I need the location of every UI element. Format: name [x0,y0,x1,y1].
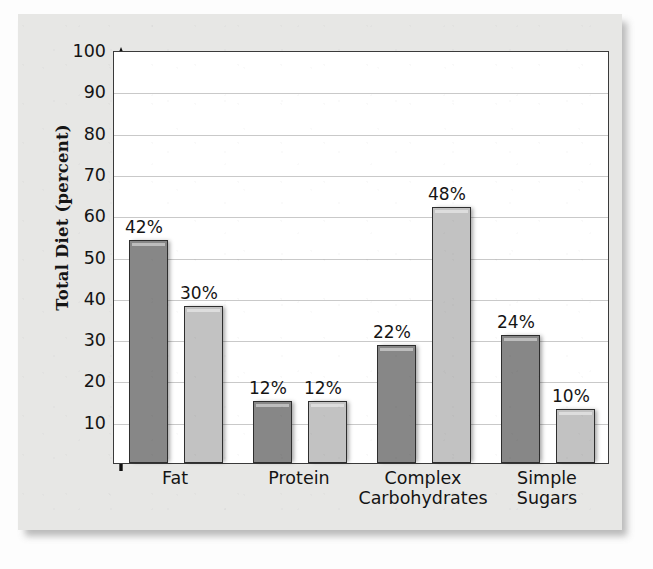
gridline [114,135,608,136]
y-tick-label: 90 [60,82,106,102]
bar-value-label: 12% [304,378,342,398]
bar-highlight [504,338,537,341]
bar-value-label: 42% [125,217,163,237]
y-axis-tick-labels: 100908070605040302010 [50,51,106,464]
bar-highlight [380,348,413,351]
y-tick-label: 50 [60,248,106,268]
bar-highlight [132,243,165,246]
plot-area [113,51,609,464]
bar-value-label: 48% [428,184,466,204]
bar-highlight [256,404,289,407]
bar-value-label: 30% [180,283,218,303]
bar [253,401,292,463]
y-tick-label: 70 [60,165,106,185]
gridline [114,93,608,94]
bar [184,306,223,463]
plot-wrapper: 42%30%12%12%22%48%24%10% [113,51,609,464]
bar [308,401,347,463]
bar [501,335,540,463]
figure-page: Total Diet (percent) 1009080706050403020… [0,0,653,569]
bar-highlight [187,309,220,312]
y-tick-label: 30 [60,330,106,350]
bar [129,240,168,463]
y-tick-label: 60 [60,206,106,226]
bar-highlight [559,412,592,415]
bar [377,345,416,463]
bar [432,207,471,463]
y-tick-label: 80 [60,124,106,144]
bar-value-label: 22% [373,322,411,342]
bar-highlight [311,404,344,407]
gridline [114,217,608,218]
y-tick-label: 100 [60,41,106,61]
bar [556,409,595,463]
gridline [114,176,608,177]
bar-value-label: 12% [249,378,287,398]
y-tick-label: 10 [60,413,106,433]
gridline [114,259,608,260]
x-axis-category-labels: FatProteinComplex CarbohydratesSimple Su… [113,469,609,527]
bar-value-label: 24% [497,312,535,332]
category-label: Simple Sugars [467,469,627,509]
y-tick-label: 40 [60,289,106,309]
figure-panel: Total Diet (percent) 1009080706050403020… [18,14,622,530]
bar-value-label: 10% [552,386,590,406]
y-tick-label: 20 [60,371,106,391]
bar-highlight [435,210,468,213]
